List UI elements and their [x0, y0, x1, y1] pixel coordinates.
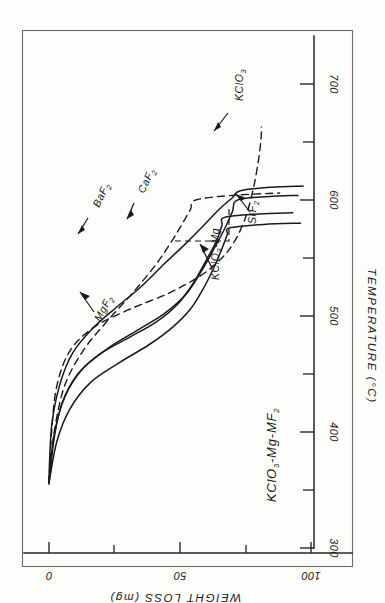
- curve-label-baf2: BaF2: [90, 180, 115, 210]
- weight-loss-axis-title: WEIGHT LOSS (mg): [109, 592, 241, 603]
- wl-ticklabel-100: 100: [301, 570, 321, 582]
- wl-ticklabel-50: 50: [173, 570, 187, 582]
- figure-title: KClO3-Mg-MF2: [264, 408, 281, 503]
- curve-kclo3-mg: [49, 193, 280, 481]
- wl-ticklabel-0: 0: [45, 570, 52, 582]
- baf2-arrowhead: [78, 225, 85, 234]
- curve-label-kclo3: KClO3: [233, 69, 248, 102]
- figure-root: 700 600 500 400 300 TEMPERATURE (°C) 0 5…: [0, 0, 385, 603]
- temperature-axis-title: TEMPERATURE (°C): [366, 268, 378, 403]
- temperature-axis: 700 600 500 400 300 TEMPERATURE (°C): [300, 36, 378, 558]
- caf2-arrowhead: [127, 210, 134, 219]
- curve-srf2: [49, 223, 301, 483]
- temp-ticklabel-300: 300: [328, 538, 340, 558]
- kclo3-mg-arrowhead: [200, 244, 209, 253]
- temp-ticklabel-400: 400: [328, 422, 340, 442]
- figure-border: [23, 31, 353, 567]
- chart-canvas: 700 600 500 400 300 TEMPERATURE (°C) 0 5…: [0, 0, 385, 603]
- curve-baf2: [49, 213, 293, 482]
- temp-ticklabel-600: 600: [328, 190, 340, 210]
- temp-ticklabel-700: 700: [328, 74, 340, 94]
- curve-label-caf2: CaF2: [135, 166, 160, 196]
- temp-ticklabel-500: 500: [328, 306, 340, 326]
- curve-label-mgf2: MgF2: [91, 293, 117, 325]
- weight-loss-axis: 0 50 100 WEIGHT LOSS (mg): [24, 542, 352, 603]
- curve-kclo3: [49, 127, 261, 484]
- curve-label-srf2: SrF2: [246, 200, 261, 224]
- mgf2-arrowhead: [80, 292, 90, 300]
